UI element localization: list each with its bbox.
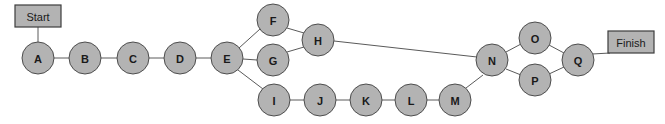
node-g[interactable]: G (257, 44, 289, 76)
edge-n-o (506, 44, 521, 52)
node-h[interactable]: H (302, 24, 334, 56)
node-p[interactable]: P (519, 64, 551, 96)
network-diagram: ABCDEFGHIJKLMNOPQ StartFinish (0, 0, 665, 124)
nodes-layer: ABCDEFGHIJKLMNOPQ (22, 4, 594, 116)
node-c-label: C (129, 53, 137, 65)
node-n-label: N (488, 55, 496, 67)
terminals-layer: StartFinish (15, 5, 654, 53)
finish-label: Finish (616, 37, 645, 49)
edge-e-f (239, 29, 260, 48)
node-j-label: J (317, 95, 323, 107)
edge-p-q (549, 67, 564, 74)
node-m-label: M (450, 95, 459, 107)
node-c[interactable]: C (117, 42, 149, 74)
node-q-label: Q (574, 55, 583, 67)
node-o-label: O (531, 33, 540, 45)
node-p-label: P (531, 75, 538, 87)
node-q[interactable]: Q (562, 44, 594, 76)
node-b[interactable]: B (69, 42, 101, 74)
edge-e-i (238, 70, 263, 89)
node-m[interactable]: M (439, 84, 471, 116)
edge-f-h (287, 28, 304, 33)
edge-q-finish (592, 53, 610, 54)
edge-n-p (506, 69, 521, 75)
node-o[interactable]: O (519, 22, 551, 54)
node-a[interactable]: A (22, 42, 54, 74)
node-d[interactable]: D (164, 42, 196, 74)
node-j[interactable]: J (304, 84, 336, 116)
node-l-label: L (408, 95, 415, 107)
node-f[interactable]: F (257, 4, 289, 36)
edge-h-n (334, 41, 477, 57)
node-l[interactable]: L (395, 84, 427, 116)
node-f-label: F (270, 15, 277, 27)
node-g-label: G (269, 55, 278, 67)
edge-m-n (466, 75, 483, 88)
node-k[interactable]: K (350, 84, 382, 116)
node-a-label: A (34, 53, 42, 65)
node-i[interactable]: I (258, 84, 290, 116)
edge-o-q (549, 45, 564, 53)
node-n[interactable]: N (476, 44, 508, 76)
node-i-label: I (272, 95, 275, 107)
node-d-label: D (176, 53, 184, 65)
edge-e-g (243, 59, 257, 60)
finish-terminal[interactable]: Finish (608, 31, 654, 53)
node-e-label: E (223, 53, 230, 65)
node-k-label: K (362, 95, 370, 107)
start-terminal[interactable]: Start (15, 5, 61, 27)
node-h-label: H (314, 35, 322, 47)
start-label: Start (26, 11, 49, 23)
node-b-label: B (81, 53, 89, 65)
edge-g-h (287, 47, 304, 52)
diagram-canvas: ABCDEFGHIJKLMNOPQ StartFinish (0, 0, 665, 124)
node-e[interactable]: E (211, 42, 243, 74)
